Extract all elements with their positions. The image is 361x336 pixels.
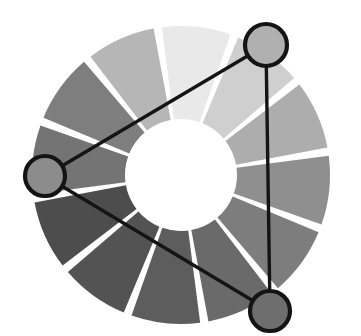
wheel-center-hub [126, 120, 237, 231]
color-wheel-canvas [0, 0, 361, 336]
marker-left[interactable] [25, 156, 65, 196]
marker-top-right[interactable] [245, 24, 287, 66]
marker-bottom-right[interactable] [250, 291, 290, 331]
color-wheel-figure [0, 0, 361, 336]
